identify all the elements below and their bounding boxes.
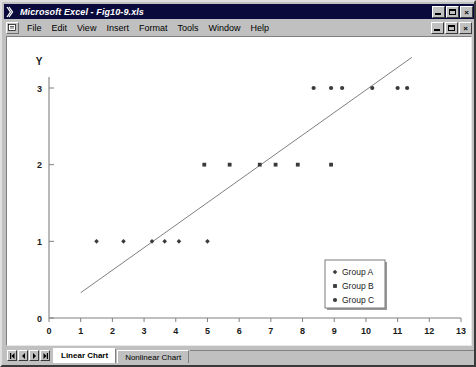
x-axis-tick-label: 13 xyxy=(456,326,466,336)
x-axis-tick-label: 8 xyxy=(300,326,305,336)
minimize-button[interactable] xyxy=(432,6,445,18)
doc-close-icon: × xyxy=(460,23,471,33)
legend-marker-group-b[interactable] xyxy=(333,284,337,288)
legend-label-group-c: Group C xyxy=(342,295,374,305)
menu-item-edit[interactable]: Edit xyxy=(47,22,73,34)
x-axis-tick-label: 4 xyxy=(173,326,178,336)
close-icon: × xyxy=(461,7,472,17)
x-axis-tick-label: 3 xyxy=(142,326,147,336)
x-axis-tick-label: 11 xyxy=(393,326,403,336)
x-axis-tick-label: 1 xyxy=(78,326,83,336)
data-point[interactable] xyxy=(228,163,232,167)
menu-item-help[interactable]: Help xyxy=(245,22,274,34)
x-axis-tick-label: 7 xyxy=(268,326,273,336)
data-point[interactable] xyxy=(94,239,99,244)
x-axis-tick-label: 5 xyxy=(205,326,210,336)
x-axis-tick-label: 0 xyxy=(46,326,51,336)
restore-button[interactable] xyxy=(446,6,459,18)
y-axis-tick-label: 0 xyxy=(37,314,42,324)
menu-item-insert[interactable]: Insert xyxy=(101,22,134,34)
x-axis-tick-label: 12 xyxy=(424,326,434,336)
x-axis-tick-label: 2 xyxy=(110,326,115,336)
data-point[interactable] xyxy=(274,163,278,167)
data-point[interactable] xyxy=(162,239,167,244)
data-point[interactable] xyxy=(396,86,400,90)
menu-item-tools[interactable]: Tools xyxy=(172,22,203,34)
legend-label-group-b: Group B xyxy=(342,281,374,291)
sheet-navigation-buttons xyxy=(7,350,50,361)
doc-restore-button[interactable] xyxy=(445,22,458,34)
next-sheet-button[interactable] xyxy=(29,350,39,361)
series-group-b xyxy=(202,163,333,167)
data-point[interactable] xyxy=(340,86,344,90)
scatter-chart[interactable]: 0123456789101112130123XYGroup AGroup BGr… xyxy=(7,37,471,345)
doc-minimize-button[interactable] xyxy=(431,22,444,34)
data-point[interactable] xyxy=(312,86,316,90)
document-window-controls: × xyxy=(431,22,472,34)
menu-item-view[interactable]: View xyxy=(72,22,101,34)
menu-item-window[interactable]: Window xyxy=(203,22,245,34)
title-bar: Microsoft Excel - Fig10-9.xls × xyxy=(4,4,474,19)
series-group-a xyxy=(94,239,210,244)
tab-bar-filler xyxy=(190,350,474,363)
y-axis-tick-label: 2 xyxy=(37,160,42,170)
data-point[interactable] xyxy=(121,239,126,244)
linear-trendline[interactable] xyxy=(81,57,412,292)
first-sheet-button[interactable] xyxy=(7,350,17,361)
sheet-tab-nonlinear-chart[interactable]: Nonlinear Chart xyxy=(117,350,189,363)
legend-label-group-a: Group A xyxy=(342,267,374,277)
sheet-tab-bar: Linear Chart Nonlinear Chart xyxy=(4,346,474,363)
window-controls: × xyxy=(432,6,473,18)
data-point[interactable] xyxy=(370,86,374,90)
menu-bar: File Edit View Insert Format Tools Windo… xyxy=(4,20,474,35)
data-point[interactable] xyxy=(202,163,206,167)
previous-sheet-button[interactable] xyxy=(18,350,28,361)
x-axis-tick-label: 10 xyxy=(361,326,371,336)
chart-client-area[interactable]: 0123456789101112130123XYGroup AGroup BGr… xyxy=(6,36,472,346)
data-point[interactable] xyxy=(329,163,333,167)
close-button[interactable]: × xyxy=(460,6,473,18)
document-icon[interactable] xyxy=(6,22,19,34)
data-point[interactable] xyxy=(296,163,300,167)
x-axis-tick-label: 6 xyxy=(237,326,242,336)
sheet-tab-linear-chart[interactable]: Linear Chart xyxy=(53,348,116,363)
data-point[interactable] xyxy=(329,86,333,90)
y-axis-tick-label: 3 xyxy=(37,84,42,94)
data-point[interactable] xyxy=(405,86,409,90)
data-point[interactable] xyxy=(258,163,262,167)
excel-x-icon xyxy=(6,6,18,18)
x-axis-tick-label: 9 xyxy=(332,326,337,336)
last-sheet-button[interactable] xyxy=(40,350,50,361)
excel-application-window: Microsoft Excel - Fig10-9.xls × File Edi… xyxy=(0,0,476,367)
y-axis-tick-label: 1 xyxy=(37,237,42,247)
x-axis-title: X xyxy=(252,344,259,345)
doc-close-button[interactable]: × xyxy=(459,22,472,34)
menu-item-format[interactable]: Format xyxy=(134,22,173,34)
legend-marker-group-c[interactable] xyxy=(333,298,337,302)
series-group-c xyxy=(312,86,410,90)
data-point[interactable] xyxy=(177,239,182,244)
menu-item-file[interactable]: File xyxy=(22,22,47,34)
y-axis-title: Y xyxy=(36,56,43,67)
window-title: Microsoft Excel - Fig10-9.xls xyxy=(20,7,432,17)
data-point[interactable] xyxy=(205,239,210,244)
